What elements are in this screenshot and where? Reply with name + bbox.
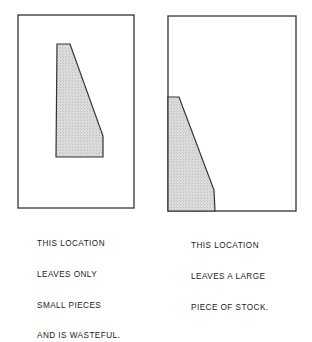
caption-line: THIS LOCATION	[37, 239, 120, 249]
caption-line: SMALL PIECES	[37, 301, 120, 311]
right-caption: THIS LOCATION LEAVES A LARGE PIECE OF ST…	[191, 221, 269, 323]
caption-line: PIECE OF STOCK.	[191, 303, 269, 313]
right-panel	[168, 16, 296, 211]
left-caption: THIS LOCATION LEAVES ONLY SMALL PIECES A…	[37, 219, 120, 342]
caption-line: LEAVES A LARGE	[191, 272, 269, 282]
caption-line: LEAVES ONLY	[37, 270, 120, 280]
caption-line: THIS LOCATION	[191, 241, 269, 251]
left-panel	[18, 15, 134, 208]
caption-line: AND IS WASTEFUL.	[37, 331, 120, 341]
